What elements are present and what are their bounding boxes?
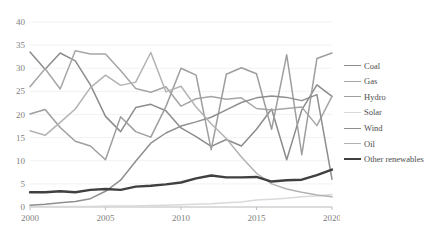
y-tick-label: 30 <box>16 63 26 73</box>
x-tick-label: 2020 <box>323 213 340 223</box>
legend-item-coal[interactable]: Coal <box>344 58 446 74</box>
legend-item-label: Oil <box>364 140 375 149</box>
legend-item-other-renewables[interactable]: Other renewables <box>344 152 446 168</box>
legend-item-solar[interactable]: Solar <box>344 105 446 121</box>
y-tick-label: 35 <box>16 40 26 50</box>
legend-item-gas[interactable]: Gas <box>344 74 446 90</box>
y-tick-label: 20 <box>16 110 26 120</box>
x-tick-label: 2005 <box>97 213 116 223</box>
legend-swatch-icon <box>344 143 361 144</box>
y-tick-label: 40 <box>16 17 26 27</box>
x-tick-label: 2000 <box>21 213 40 223</box>
legend-swatch-icon <box>344 112 361 113</box>
legend-item-label: Other renewables <box>364 155 424 164</box>
y-tick-label: 10 <box>16 156 26 166</box>
y-tick-label: 5 <box>21 179 26 189</box>
legend-item-label: Coal <box>364 62 380 71</box>
legend-item-label: Solar <box>364 108 382 117</box>
x-tick-label: 2015 <box>248 213 267 223</box>
legend-swatch-icon <box>344 81 361 82</box>
line-chart: 0510152025303540 20002005201020152020 Co… <box>0 0 446 233</box>
legend-swatch-icon <box>344 158 361 160</box>
legend-item-label: Wind <box>364 124 383 133</box>
chart-legend: CoalGasHydroSolarWindOilOther renewables <box>344 58 446 167</box>
legend-swatch-icon <box>344 128 361 129</box>
y-tick-label: 0 <box>21 202 26 212</box>
legend-item-hydro[interactable]: Hydro <box>344 89 446 105</box>
legend-item-label: Gas <box>364 77 377 86</box>
y-tick-label: 15 <box>16 133 26 143</box>
chart-svg: 0510152025303540 20002005201020152020 <box>0 0 340 233</box>
legend-swatch-icon <box>344 65 361 66</box>
legend-item-wind[interactable]: Wind <box>344 120 446 136</box>
legend-swatch-icon <box>344 96 361 97</box>
legend-item-oil[interactable]: Oil <box>344 136 446 152</box>
plot-area: 0510152025303540 20002005201020152020 <box>0 0 340 233</box>
series-line-solar <box>30 195 332 207</box>
series-line-oil <box>30 53 332 197</box>
legend-item-label: Hydro <box>364 93 386 102</box>
y-tick-labels: 0510152025303540 <box>16 17 26 212</box>
data-series <box>30 51 332 207</box>
x-tick-label: 2010 <box>172 213 191 223</box>
y-tick-label: 25 <box>16 86 26 96</box>
x-tick-labels: 20002005201020152020 <box>21 207 340 223</box>
